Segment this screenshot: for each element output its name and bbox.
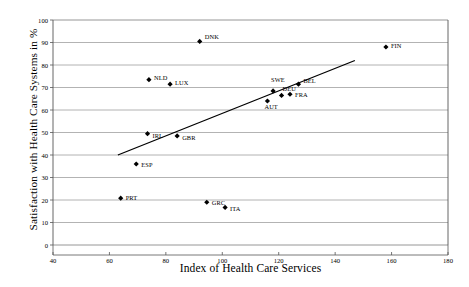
data-point[interactable] [197, 39, 202, 44]
data-point-marker-gbr [175, 133, 180, 138]
data-point[interactable] [383, 44, 388, 49]
scatter-chart-figure: Satisfaction with Health Care Systems in… [0, 0, 469, 287]
data-point[interactable] [287, 92, 292, 97]
y-tick-label: 20 [26, 197, 48, 204]
x-tick-label: 80 [155, 257, 177, 264]
data-point-label-fra: FRA [295, 91, 308, 98]
data-point-marker-deu [279, 93, 284, 98]
data-point-marker-irl [145, 131, 150, 136]
data-point-marker-nld [146, 77, 151, 82]
x-tick-label: 120 [268, 257, 290, 264]
data-point[interactable] [175, 133, 180, 138]
data-point[interactable] [134, 161, 139, 166]
data-point-label-dnk: DNK [205, 33, 219, 40]
y-tick-label: 0 [26, 242, 48, 249]
x-tick-label: 60 [98, 257, 120, 264]
data-point-label-lux: LUX [175, 79, 188, 86]
y-tick-label: 50 [26, 129, 48, 136]
x-tick-label: 140 [324, 257, 346, 264]
data-point[interactable] [146, 77, 151, 82]
data-point-label-grc: GRC [212, 199, 225, 206]
data-point-marker-dnk [197, 39, 202, 44]
data-point-marker-lux [167, 82, 172, 87]
data-point-label-ita: ITA [230, 205, 240, 212]
data-point-label-gbr: GBR [182, 134, 195, 141]
data-point-label-irl: IRL [153, 132, 164, 139]
data-point-label-bel: BEL [303, 77, 315, 84]
data-point-label-esp: ESP [141, 161, 152, 168]
data-point-label-nld: NLD [154, 74, 167, 81]
y-tick-label: 60 [26, 107, 48, 114]
data-point-label-prt: PRT [126, 194, 138, 201]
y-tick-label: 100 [26, 17, 48, 24]
y-tick-label: 80 [26, 62, 48, 69]
x-tick-label: 40 [42, 257, 64, 264]
data-point-marker-esp [134, 161, 139, 166]
data-point[interactable] [204, 200, 209, 205]
data-point[interactable] [167, 82, 172, 87]
data-point-label-fin: FIN [391, 42, 402, 49]
data-point-label-aut: AUT [264, 103, 277, 110]
y-tick-label: 90 [26, 39, 48, 46]
data-point-marker-grc [204, 200, 209, 205]
data-point-marker-fra [287, 92, 292, 97]
y-tick-label: 70 [26, 84, 48, 91]
x-tick-label: 180 [437, 257, 459, 264]
data-point-marker-fin [383, 44, 388, 49]
y-tick-label: 10 [26, 219, 48, 226]
y-tick-label: 30 [26, 174, 48, 181]
data-point[interactable] [145, 131, 150, 136]
x-tick-label: 160 [381, 257, 403, 264]
y-tick-label: 40 [26, 152, 48, 159]
data-point-label-swe: SWE [271, 76, 285, 83]
x-tick-label: 100 [211, 257, 233, 264]
data-point-label-deu: DEU [283, 85, 296, 92]
data-point[interactable] [279, 93, 284, 98]
